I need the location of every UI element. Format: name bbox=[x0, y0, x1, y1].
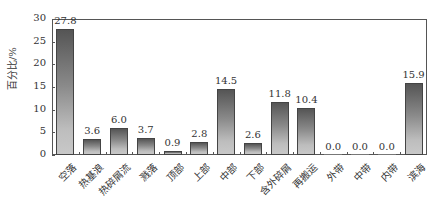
x-tick-label: 上部 bbox=[189, 159, 214, 184]
value-label: 0.0 bbox=[345, 141, 375, 152]
value-label: 15.9 bbox=[399, 69, 429, 80]
bar-zero bbox=[378, 154, 396, 155]
y-tick-label: 25 bbox=[22, 35, 46, 46]
value-label: 11.8 bbox=[265, 88, 295, 99]
value-label: 0.0 bbox=[372, 141, 402, 152]
x-tick-label: 中带 bbox=[350, 159, 375, 184]
bar bbox=[83, 139, 101, 155]
value-label: 6.0 bbox=[104, 114, 134, 125]
value-label: 10.4 bbox=[291, 94, 321, 105]
y-tick-label: 15 bbox=[22, 80, 46, 91]
bar bbox=[190, 142, 208, 155]
x-tick bbox=[400, 152, 401, 155]
bar bbox=[217, 89, 235, 155]
x-tick-label: 内带 bbox=[377, 159, 402, 184]
x-tick-label: 顶部 bbox=[162, 159, 187, 184]
bar bbox=[244, 143, 262, 155]
value-label: 3.6 bbox=[77, 125, 107, 136]
bar bbox=[110, 128, 128, 155]
value-label: 3.7 bbox=[131, 124, 161, 135]
y-tick bbox=[52, 132, 55, 133]
x-tick-label: 再搬运 bbox=[289, 159, 321, 191]
x-tick bbox=[79, 152, 80, 155]
x-tick-label: 中部 bbox=[216, 159, 241, 184]
y-tick bbox=[52, 155, 55, 156]
x-tick-label: 外带 bbox=[323, 159, 348, 184]
value-label: 14.5 bbox=[211, 75, 241, 86]
bar bbox=[271, 102, 289, 155]
value-label: 27.8 bbox=[50, 15, 80, 26]
value-label: 2.8 bbox=[184, 128, 214, 139]
value-label: 0.9 bbox=[158, 137, 188, 148]
y-tick-label: 5 bbox=[22, 125, 46, 136]
y-tick-label: 20 bbox=[22, 57, 46, 68]
y-tick bbox=[52, 42, 55, 43]
bar bbox=[56, 29, 74, 155]
value-label: 0.0 bbox=[318, 141, 348, 152]
y-axis-label: 百分比/% bbox=[4, 47, 19, 90]
x-tick bbox=[347, 152, 348, 155]
y-tick bbox=[52, 87, 55, 88]
bar-zero bbox=[324, 154, 342, 155]
bar bbox=[137, 138, 155, 155]
x-tick bbox=[373, 152, 374, 155]
bar bbox=[164, 151, 182, 155]
x-tick bbox=[320, 152, 321, 155]
x-tick-label: 滨海 bbox=[403, 159, 428, 184]
bar-chart: 百分比/% 051015202530 27.8空落3.6热基浪6.0热碎屑流3.… bbox=[0, 0, 443, 212]
x-tick bbox=[293, 152, 294, 155]
value-label: 2.6 bbox=[238, 129, 268, 140]
bar-zero bbox=[351, 154, 369, 155]
x-tick bbox=[213, 152, 214, 155]
x-tick bbox=[266, 152, 267, 155]
x-tick bbox=[240, 152, 241, 155]
x-tick bbox=[132, 152, 133, 155]
bar bbox=[405, 83, 423, 155]
y-tick bbox=[52, 64, 55, 65]
bar bbox=[297, 108, 315, 155]
x-tick bbox=[106, 152, 107, 155]
x-tick bbox=[159, 152, 160, 155]
y-tick-label: 30 bbox=[22, 12, 46, 23]
y-tick bbox=[52, 110, 55, 111]
y-tick-label: 0 bbox=[22, 148, 46, 159]
x-tick bbox=[186, 152, 187, 155]
y-tick-label: 10 bbox=[22, 103, 46, 114]
x-tick-label: 溅落 bbox=[136, 159, 161, 184]
